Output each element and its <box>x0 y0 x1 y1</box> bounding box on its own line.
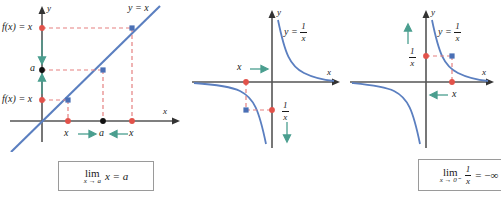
y-value-label-upper: f(x) = x <box>2 22 32 32</box>
dashed-guides-2 <box>246 82 272 110</box>
divergence-arrow-up-3 <box>405 24 412 44</box>
plot-one-over-x-left <box>186 0 346 152</box>
curve-label-fraction-2: 1 x <box>300 22 307 43</box>
formula-expression-1: lim x → a x = a <box>84 168 128 185</box>
panel-limit-x-to-a: y = x x y f(x) = x a f(x) = x x a x lim … <box>0 0 186 197</box>
curve-label-numerator-3: 1 <box>454 22 461 31</box>
axis-label-y-panel-2: y <box>277 8 281 17</box>
approach-arrow-x-3 <box>430 92 448 99</box>
x-value-label-a: a <box>99 128 104 138</box>
axis-label-x-panel-2: x <box>327 68 331 77</box>
axis-label-x-panel-1: x <box>163 107 167 116</box>
point-value-on-y-axis-2 <box>269 107 275 113</box>
curve-label-fraction-3: 1 x <box>454 22 461 43</box>
limit-body-1: x = a <box>105 170 128 182</box>
limit-operator-1: lim x → a <box>84 168 101 185</box>
value-fraction-2: 1 x <box>282 101 289 122</box>
curve-label-denominator-3: x <box>454 34 461 43</box>
curve-branch-lower-left-2 <box>194 83 266 144</box>
value-label-one-over-x-3: 1 x <box>409 47 416 68</box>
panel-limit-right-positive-infinity: x y y = 1 x 1 x x lim x → 0⁺ 1 x = <box>346 0 501 197</box>
value-numerator-2: 1 <box>282 101 289 110</box>
value-denominator-3: x <box>409 59 416 68</box>
point-on-curve-3 <box>449 53 454 58</box>
axes-group <box>10 6 180 142</box>
curve-label-numerator-2: 1 <box>300 22 307 31</box>
value-fraction-3: 1 x <box>409 47 416 68</box>
point-x-on-axis-3 <box>449 79 455 85</box>
curve-label-y-equals-x: y = x <box>128 3 149 13</box>
curve-label-y-equals-one-over-x-2: y = 1 x <box>284 22 307 43</box>
curve-label-lhs-2: y = <box>284 26 298 37</box>
value-denominator-2: x <box>282 113 289 122</box>
y-value-label-a: a <box>30 63 35 73</box>
point-on-curve-2 <box>243 107 248 112</box>
approach-arrow-x-2 <box>250 66 268 73</box>
curve-label-denominator-2: x <box>300 34 307 43</box>
divergence-arrow-down-2 <box>284 122 291 142</box>
x-approach-label-2: x <box>237 62 241 72</box>
axis-label-y-panel-3: y <box>431 8 435 17</box>
x-value-label-right: x <box>129 128 133 138</box>
curve-label-lhs-3: y = <box>438 26 452 37</box>
panel-limit-left-negative-infinity: x y y = 1 x x 1 x lim x → 0⁻ 1 x = <box>186 0 346 197</box>
curve-label-y-equals-one-over-x-3: y = 1 x <box>438 22 461 43</box>
point-value-on-y-axis-3 <box>423 53 429 59</box>
limit-subscript-1: x → a <box>84 178 101 185</box>
plot-svg-panel-2 <box>186 0 346 152</box>
plot-one-over-x-right <box>346 0 501 152</box>
point-x-on-axis-2 <box>243 79 249 85</box>
value-label-one-over-x-2: 1 x <box>282 101 289 122</box>
y-value-label-lower: f(x) = x <box>2 94 32 104</box>
x-value-label-left: x <box>64 128 68 138</box>
curve-branch-lower-left-3 <box>352 83 420 144</box>
formula-box-limit-x-to-a: lim x → a x = a <box>58 161 154 191</box>
value-numerator-3: 1 <box>409 47 416 56</box>
plot-svg-panel-3 <box>346 0 501 152</box>
axis-label-x-panel-3: x <box>482 68 486 77</box>
axis-label-y-panel-1: y <box>47 4 51 13</box>
x-approach-label-3: x <box>452 89 456 99</box>
dashed-guides-3 <box>426 56 452 82</box>
